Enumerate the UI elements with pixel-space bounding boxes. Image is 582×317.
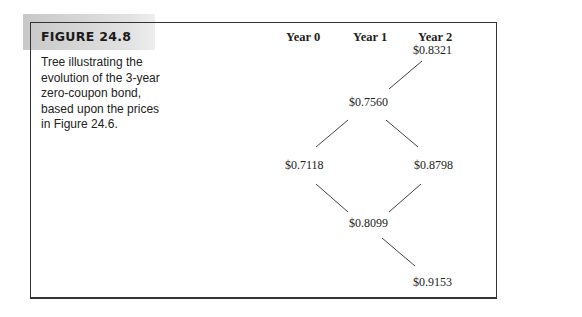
edge-upper-mid-to-top xyxy=(389,61,422,89)
edge-lower-mid-to-bottom xyxy=(382,238,415,266)
node-bottom: $0.9153 xyxy=(413,275,452,290)
node-lower-mid: $0.8099 xyxy=(349,216,388,231)
edge-upper-mid-to-left xyxy=(316,120,348,147)
node-year1-upper: $0.7560 xyxy=(349,95,388,110)
edge-upper-mid-to-right xyxy=(386,120,418,147)
node-year2-top: $0.8321 xyxy=(413,43,452,58)
edge-left-to-lower-mid xyxy=(316,184,348,212)
node-right: $0.8798 xyxy=(414,158,453,173)
node-left: $0.7118 xyxy=(285,158,324,173)
edge-right-to-lower-mid xyxy=(389,184,421,212)
